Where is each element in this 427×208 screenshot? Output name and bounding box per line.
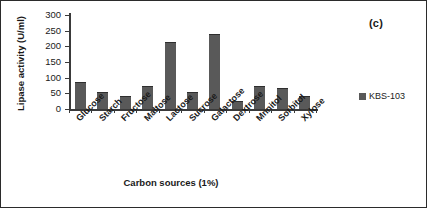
y-tick-label-250: 250 bbox=[45, 25, 61, 36]
legend-label-kbs-103: KBS-103 bbox=[369, 91, 405, 101]
x-tick-0 bbox=[69, 109, 70, 113]
y-tick-200: 200 bbox=[65, 46, 69, 47]
y-axis-line bbox=[69, 13, 71, 109]
y-tick-250: 250 bbox=[65, 31, 69, 32]
legend: KBS-103 bbox=[359, 91, 405, 101]
y-tick-label-100: 100 bbox=[45, 72, 61, 83]
legend-swatch-kbs-103 bbox=[359, 93, 366, 100]
y-tick-label-300: 300 bbox=[45, 9, 61, 20]
y-tick-150: 150 bbox=[65, 62, 69, 63]
y-tick-label-0: 0 bbox=[56, 103, 61, 114]
y-tick-label-50: 50 bbox=[50, 87, 61, 98]
figure-panel: (c) Lipase activity (U/ml) 0501001502002… bbox=[0, 0, 427, 208]
y-tick-100: 100 bbox=[65, 78, 69, 79]
y-tick-50: 50 bbox=[65, 93, 69, 94]
panel-label: (c) bbox=[369, 17, 383, 29]
x-axis-title: Carbon sources (1%) bbox=[1, 177, 341, 188]
y-tick-label-200: 200 bbox=[45, 40, 61, 51]
y-tick-300: 300 bbox=[65, 15, 69, 16]
y-tick-label-150: 150 bbox=[45, 56, 61, 67]
y-axis-title: Lipase activity (U/ml) bbox=[15, 4, 26, 124]
